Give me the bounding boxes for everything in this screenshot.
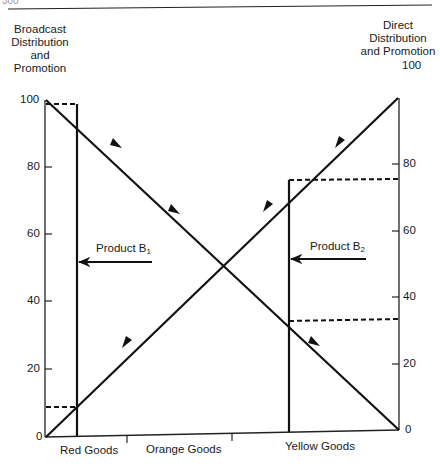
left-axis-title: Broadcast Distribution and Promotion xyxy=(4,23,76,75)
product-b2-label: Product B2 xyxy=(310,240,365,254)
left-tick-60: 60 xyxy=(27,227,40,239)
left-tick-80: 80 xyxy=(27,160,40,172)
left-tick-20: 20 xyxy=(27,362,40,374)
x-category-orange: Orange Goods xyxy=(146,443,221,455)
right-tick-0: 0 xyxy=(405,423,411,435)
left-tick-40: 40 xyxy=(27,294,40,306)
right-axis-title: Direct Distribution and Promotion xyxy=(358,19,438,58)
page-number: 300 xyxy=(2,0,19,7)
b2-dash-top xyxy=(289,179,398,180)
right-tick-80: 80 xyxy=(403,157,416,169)
page-top-rule xyxy=(8,5,432,9)
right-ticks xyxy=(392,164,399,364)
x-axis xyxy=(45,430,399,437)
left-tick-0: 0 xyxy=(36,430,42,442)
x-category-red: Red Goods xyxy=(60,444,118,456)
right-tick-40: 40 xyxy=(403,290,416,302)
x-category-yellow: Yellow Goods xyxy=(285,440,355,452)
left-tick-100: 100 xyxy=(20,93,39,105)
product-b1-label: Product B1 xyxy=(96,242,151,256)
b2-dash-bottom xyxy=(289,319,398,321)
left-ticks xyxy=(45,167,52,369)
right-tick-20: 20 xyxy=(403,357,416,369)
right-tick-100: 100 xyxy=(402,59,421,71)
right-tick-60: 60 xyxy=(403,224,416,236)
